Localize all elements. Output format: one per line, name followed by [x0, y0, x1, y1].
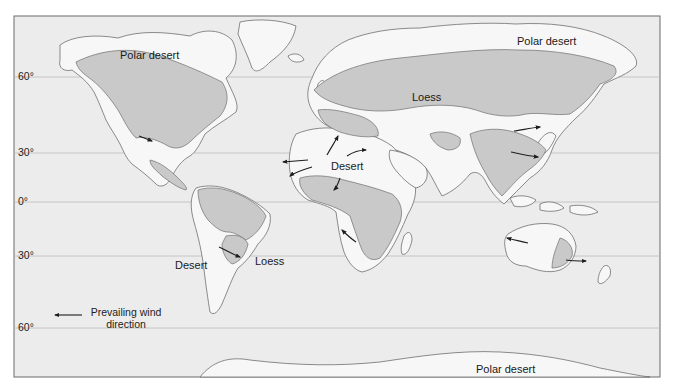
latitude-label-0: 0° — [18, 196, 28, 207]
label-polar-desert-north-america: Polar desert — [120, 50, 179, 61]
latitude-label-30n: 30° — [18, 147, 34, 158]
label-desert-africa: Desert — [331, 161, 363, 172]
legend-line-1: Prevailing wind — [86, 306, 166, 318]
label-polar-desert-asia: Polar desert — [517, 36, 576, 47]
legend-wind-direction: Prevailing wind direction — [86, 306, 166, 330]
latitude-label-60n: 60° — [18, 71, 34, 82]
label-loess-south-america: Loess — [255, 256, 284, 267]
label-polar-desert-antarctica: Polar desert — [476, 364, 535, 375]
arrow-left-icon — [55, 310, 83, 320]
label-desert-south-america: Desert — [175, 260, 207, 271]
label-loess-asia: Loess — [412, 92, 441, 103]
legend-line-2: direction — [86, 318, 166, 330]
latitude-label-60s: 60° — [18, 322, 34, 333]
latitude-label-30s: 30° — [18, 250, 34, 261]
